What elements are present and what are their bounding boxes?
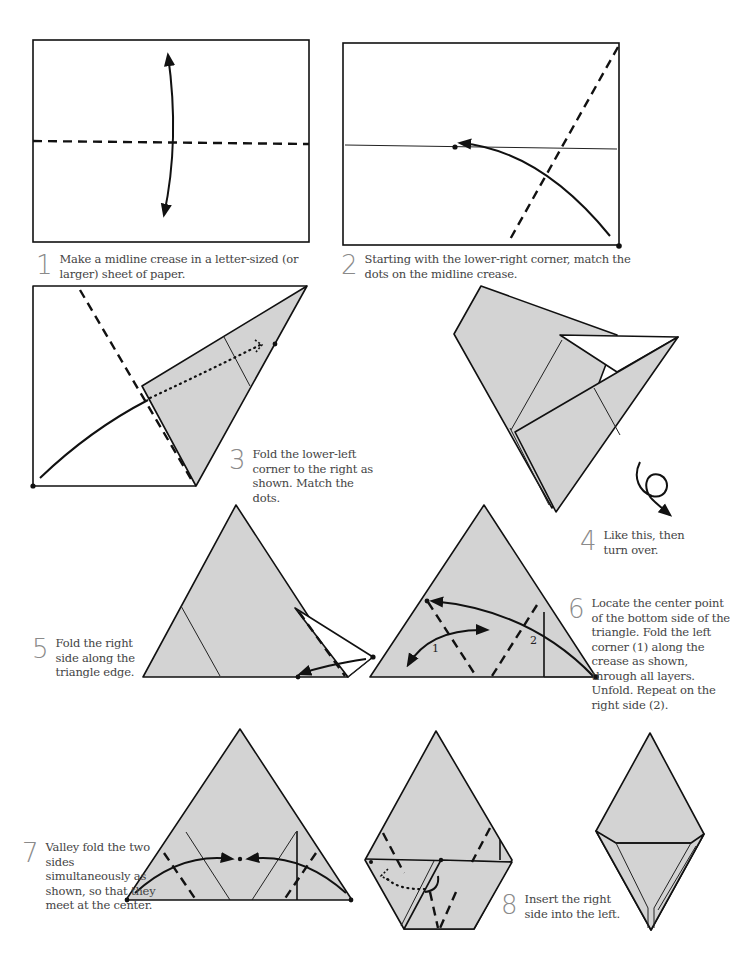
step-6-diagram: 1 2 (370, 505, 599, 680)
corner-dot (370, 654, 375, 659)
fold-arrow-icon (40, 400, 148, 478)
target-dot (425, 599, 430, 604)
paper-sheet (33, 40, 309, 242)
step-number: 7 (22, 840, 38, 866)
step-4-caption: 4 Like this, then turn over. (580, 528, 700, 557)
step-text: Valley fold the two sides simultaneously… (46, 840, 162, 913)
corner-dot (439, 858, 443, 862)
step-number: 5 (32, 636, 48, 662)
step-4-diagram (454, 286, 678, 515)
step-text: Insert the right side into the left. (525, 892, 631, 921)
step-5-caption: 5 Fold the right side along the triangle… (32, 636, 142, 680)
paper-sheet (343, 43, 619, 245)
corner-dot (369, 860, 373, 864)
center-dot (238, 857, 242, 861)
step-1-diagram (33, 40, 309, 242)
target-dot (452, 144, 457, 149)
step-number: 6 (568, 596, 584, 622)
triangle (143, 505, 348, 677)
step-text: Starting with the lower-right corner, ma… (365, 252, 631, 281)
step-2-diagram (343, 43, 622, 249)
step-text: Locate the center point of the bottom si… (592, 596, 734, 712)
target-dot (273, 342, 278, 347)
step-3-caption: 3 Fold the lower-left corner to the righ… (229, 447, 379, 505)
corner-dot (30, 483, 35, 488)
step-text: Make a midline crease in a letter-sized … (60, 252, 326, 281)
corner-dot (616, 243, 622, 249)
target-dot (296, 675, 301, 680)
step-number: 8 (501, 892, 517, 918)
step-number: 3 (229, 447, 245, 473)
step-text: Fold the right side along the triangle e… (56, 636, 142, 680)
step-6-caption: 6 Locate the center point of the bottom … (568, 596, 734, 712)
step-number: 4 (580, 528, 596, 554)
corner-label-1: 1 (432, 642, 439, 655)
step-8-diagram (365, 731, 512, 929)
corner-label-2: 2 (530, 634, 537, 647)
step-number: 2 (341, 252, 357, 278)
step-text: Fold the lower-left corner to the right … (253, 447, 379, 505)
step-2-caption: 2 Starting with the lower-right corner, … (341, 252, 631, 281)
corner-dot (349, 898, 354, 903)
step-8-caption: 8 Insert the right side into the left. (501, 892, 631, 921)
step-7-caption: 7 Valley fold the two sides simultaneous… (22, 840, 162, 913)
triangle (370, 505, 596, 677)
step-number: 1 (36, 252, 52, 278)
step-5-diagram (143, 505, 376, 679)
turn-over-icon (637, 462, 670, 515)
step-1-caption: 1 Make a midline crease in a letter-size… (36, 252, 326, 281)
step-text: Like this, then turn over. (604, 528, 700, 557)
